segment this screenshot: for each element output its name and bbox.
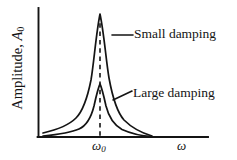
x-axis-label: ω — [177, 139, 186, 152]
large-damping-leader-line — [113, 91, 132, 100]
plot-canvas — [0, 0, 237, 160]
y-axis-label-subscript: 0 — [16, 27, 26, 32]
large-damping-annotation: Large damping — [133, 86, 215, 100]
resonance-curve-figure: Amplitude, A0 Small damping Large dampin… — [0, 0, 237, 160]
y-axis-label-prefix: Amplitude, — [9, 40, 25, 109]
omega-glyph: ω — [92, 138, 101, 153]
y-axis-label-variable: A — [9, 32, 25, 41]
y-axis-label: Amplitude, A0 — [10, 8, 27, 128]
omega-subscript: 0 — [101, 144, 106, 154]
x-axis-tick-label-omega-zero: ω0 — [92, 139, 106, 154]
small-damping-annotation: Small damping — [134, 27, 216, 41]
